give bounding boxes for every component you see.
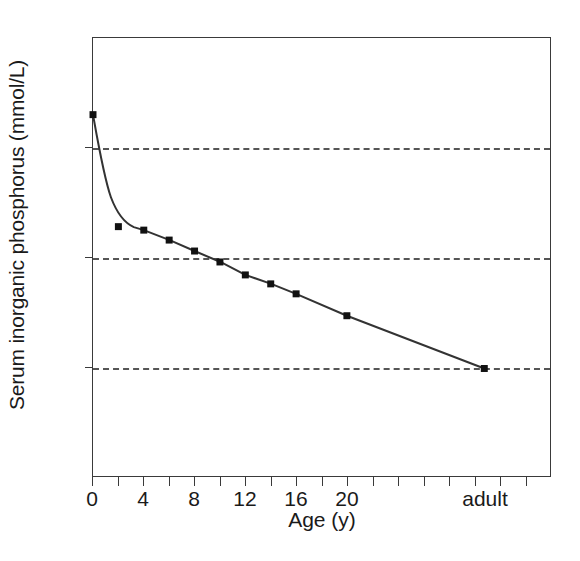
series-curve — [93, 38, 550, 476]
x-tick-mark-20 — [347, 477, 348, 486]
data-point-10 — [216, 258, 223, 265]
x-tick-mark-26 — [424, 477, 425, 486]
plot-area — [92, 37, 551, 477]
x-tick-mark-4 — [143, 477, 144, 486]
data-point-2 — [115, 223, 122, 230]
chart-figure: Serum inorganic phosphorus (mmol/L) 2.5 … — [0, 0, 580, 561]
x-tick-mark-8 — [194, 477, 195, 486]
data-point-8 — [191, 248, 198, 255]
x-tick-mark-2 — [118, 477, 119, 486]
x-tick-mark-18 — [322, 477, 323, 486]
y-axis-title: Serum inorganic phosphorus (mmol/L) — [0, 0, 34, 470]
line-path — [93, 115, 484, 369]
x-tick-mark-34 — [526, 477, 527, 486]
x-tick-mark-24 — [398, 477, 399, 486]
data-point-adult — [481, 365, 488, 372]
x-tick-mark-32 — [500, 477, 501, 486]
x-tick-mark-6 — [169, 477, 170, 486]
data-point-14 — [267, 280, 274, 287]
data-point-20 — [343, 312, 350, 319]
x-tick-mark-28 — [449, 477, 450, 486]
data-point-12 — [242, 271, 249, 278]
x-tick-mark-10 — [220, 477, 221, 486]
data-point-16 — [293, 290, 300, 297]
x-tick-mark-14 — [271, 477, 272, 486]
x-tick-mark-0 — [92, 477, 93, 486]
x-tick-mark-16 — [296, 477, 297, 486]
x-tick-mark-12 — [245, 477, 246, 486]
data-point-0 — [90, 111, 97, 118]
x-tick-mark-22 — [373, 477, 374, 486]
data-point-6 — [166, 237, 173, 244]
x-tick-mark-30 — [475, 477, 476, 486]
data-point-4 — [140, 227, 147, 234]
x-axis-title: Age (y) — [92, 508, 552, 532]
